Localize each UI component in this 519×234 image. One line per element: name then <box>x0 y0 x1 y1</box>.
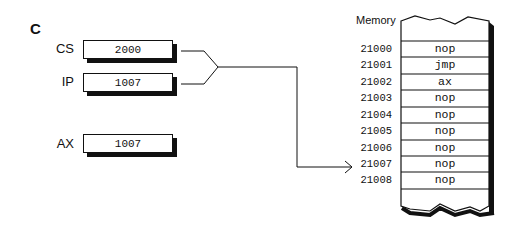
memory-cell: nop <box>401 42 489 55</box>
memory-cell: nop <box>401 173 489 186</box>
memory-cell: nop <box>401 108 489 121</box>
memory-address: 21001 <box>342 59 392 71</box>
memory-cell: nop <box>401 141 489 154</box>
memory-cell: nop <box>401 91 489 104</box>
memory-address: 21008 <box>342 174 392 186</box>
memory-address: 21005 <box>342 125 392 137</box>
memory-address: 21002 <box>342 76 392 88</box>
ip-connector <box>181 67 218 84</box>
panel-label: C <box>30 20 41 37</box>
memory-cell: jmp <box>401 58 489 71</box>
register-label-ip: IP <box>44 74 74 89</box>
memory-cell: nop <box>401 124 489 137</box>
memory-cell: ax <box>401 75 489 88</box>
memory-address: 21006 <box>342 142 392 154</box>
memory-address: 21000 <box>342 43 392 55</box>
memory-cell: nop <box>401 157 489 170</box>
register-box-cs: 2000 <box>83 40 173 59</box>
register-box-ip: 1007 <box>83 73 173 92</box>
memory-address: 21007 <box>342 158 392 170</box>
address-arrow-line <box>218 67 352 167</box>
memory-address: 21004 <box>342 109 392 121</box>
memory-address: 21003 <box>342 92 392 104</box>
register-label-ax: AX <box>44 136 74 151</box>
memory-title: Memory <box>356 14 396 26</box>
register-box-ax: 1007 <box>83 134 173 153</box>
memory-shadow <box>489 22 494 214</box>
cs-connector <box>181 51 218 67</box>
register-label-cs: CS <box>44 41 74 56</box>
